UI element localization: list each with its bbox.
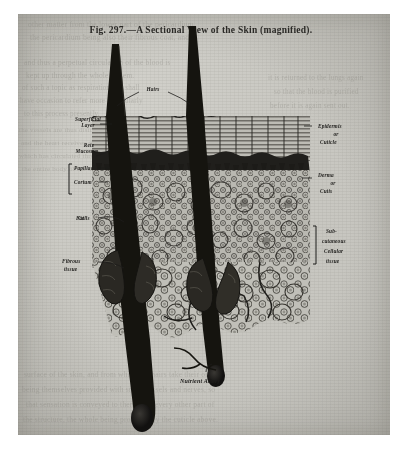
label-epidermis-line1: Epidermis [318,123,342,129]
label-derma-line3: Cutis [320,188,332,194]
label-derma-line1: Derma [318,172,334,178]
label-derma-line2: or [318,180,348,186]
label-hairs: Hairs [130,86,176,92]
label-rete-mucosum-line2: Mucosum [62,148,112,154]
label-subcutaneous-line1: Sub- [326,228,337,234]
label-superficial-layer-line2: Layer [62,122,114,128]
label-fibrous-tissue-line1: Fibrous [62,258,80,264]
label-nutrient-artery: Nutrient Artery [180,378,220,384]
label-corium: Corium [74,179,92,185]
label-epidermis-line3: Cuticle [320,139,337,145]
label-subcutaneous-line3: Cellular [324,248,343,254]
label-fibrous-tissue-line2: tissue [64,266,77,272]
label-subcutaneous-line4: tissue [326,258,339,264]
hair-bulb-left [131,404,153,432]
label-subcutaneous-line2: cutaneous [322,238,346,244]
label-fat-cells-line2: Cells [78,215,90,221]
scanned-page: other matter from the lower part of the … [0,0,402,449]
label-epidermis-line2: or [318,131,354,137]
label-papillae: Papillae [74,165,93,171]
